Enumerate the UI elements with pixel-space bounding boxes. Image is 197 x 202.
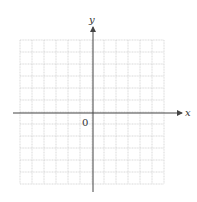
- x-axis-label: x: [185, 107, 191, 118]
- coordinate-plane: x y 0: [0, 0, 197, 202]
- grid: [20, 40, 164, 184]
- y-axis-label: y: [88, 14, 95, 25]
- origin-label: 0: [82, 117, 88, 128]
